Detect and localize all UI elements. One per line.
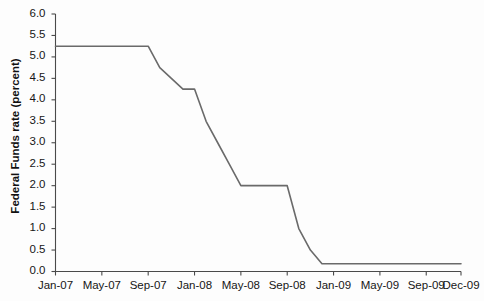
y-axis-ticks: [52, 14, 56, 272]
series-line-federal-funds-rate: [56, 46, 462, 264]
x-axis-ticks: [56, 272, 462, 276]
data-series-group: [56, 46, 462, 264]
